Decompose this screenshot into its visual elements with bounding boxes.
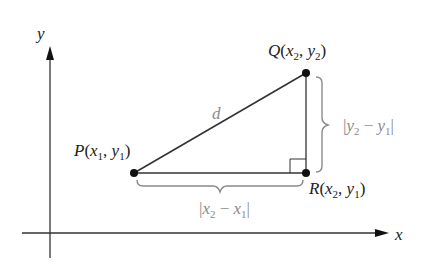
point-p: [130, 169, 138, 177]
hypotenuse-line: [134, 73, 306, 173]
point-q: [302, 69, 310, 77]
horizontal-brace-icon: [137, 180, 303, 192]
vertical-brace-icon: [316, 77, 328, 172]
point-r-label: R(x2, y1): [308, 179, 365, 200]
y-axis-arrow-icon: [46, 46, 54, 60]
hypotenuse-label: d: [212, 104, 221, 123]
point-r: [302, 169, 310, 177]
horizontal-distance-label: |x2 − x1|: [199, 199, 250, 220]
x-axis-label: x: [394, 225, 403, 244]
x-axis-arrow-icon: [375, 229, 389, 237]
y-axis: [46, 46, 54, 258]
distance-diagram: y x d P(x1, y1) Q(x2, y2) R(x2, y1) |x2 …: [0, 0, 424, 272]
right-triangle: [134, 73, 306, 173]
y-axis-label: y: [35, 24, 45, 43]
vertical-distance-label: |y2 − y1|: [343, 116, 394, 137]
point-p-label: P(x1, y1): [73, 141, 130, 162]
point-q-label: Q(x2, y2): [268, 41, 326, 62]
x-axis: [22, 229, 389, 237]
